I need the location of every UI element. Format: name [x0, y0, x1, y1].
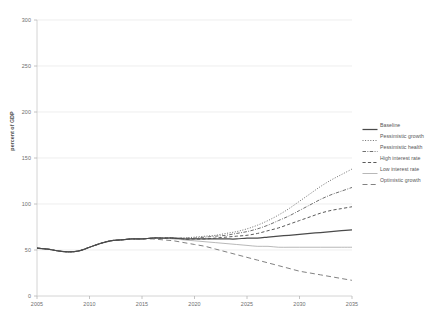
legend-line-swatch: [362, 164, 378, 173]
x-tick-label: 2025: [230, 301, 264, 307]
x-tick-label: 2030: [283, 301, 317, 307]
y-tick-label: 300: [5, 17, 31, 23]
series-line: [37, 239, 352, 280]
legend-item[interactable]: Pessimistic health: [362, 141, 430, 152]
legend-item[interactable]: Optimistic growth: [362, 174, 430, 185]
x-tick-label: 2005: [20, 301, 54, 307]
legend-line-swatch: [362, 153, 378, 162]
legend-label: Pessimistic growth: [380, 133, 424, 139]
x-tick-label: 2020: [178, 301, 212, 307]
legend-label: Baseline: [380, 122, 400, 128]
axis-ticks: [34, 20, 352, 299]
gridlines: [37, 20, 352, 250]
legend-line-swatch: [362, 120, 378, 129]
legend-item[interactable]: Pessimistic growth: [362, 130, 430, 141]
legend-item[interactable]: Baseline: [362, 119, 430, 130]
chart-container: percent of GDP 050100150200250300 200520…: [0, 0, 430, 317]
x-tick-label: 2010: [73, 301, 107, 307]
legend-label: Optimistic growth: [380, 177, 421, 183]
legend-line-swatch: [362, 131, 378, 140]
x-tick-label: 2035: [335, 301, 369, 307]
y-tick-label: 150: [5, 155, 31, 161]
data-series: [37, 169, 352, 280]
y-tick-label: 50: [5, 247, 31, 253]
legend-label: Pessimistic health: [380, 144, 422, 150]
y-tick-label: 0: [5, 293, 31, 299]
chart-legend: BaselinePessimistic growthPessimistic he…: [362, 119, 430, 185]
legend-line-swatch: [362, 175, 378, 184]
x-tick-label: 2015: [125, 301, 159, 307]
legend-item[interactable]: High interest rate: [362, 152, 430, 163]
legend-item[interactable]: Low interest rate: [362, 163, 430, 174]
legend-label: High interest rate: [380, 155, 420, 161]
y-tick-label: 100: [5, 201, 31, 207]
legend-label: Low interest rate: [380, 166, 419, 172]
y-tick-label: 250: [5, 63, 31, 69]
series-line: [37, 207, 352, 252]
y-tick-label: 200: [5, 109, 31, 115]
legend-line-swatch: [362, 142, 378, 151]
